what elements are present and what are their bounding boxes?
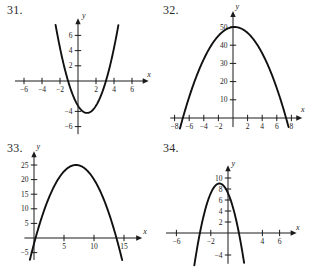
svg-text:x: x <box>142 227 147 236</box>
svg-text:4: 4 <box>69 46 73 55</box>
svg-text:20: 20 <box>220 77 228 86</box>
svg-text:−2: −2 <box>214 122 222 131</box>
svg-text:20: 20 <box>21 175 29 184</box>
svg-text:x: x <box>300 105 305 114</box>
svg-text:30: 30 <box>220 59 228 68</box>
svg-text:40: 40 <box>220 41 228 50</box>
svg-text:y: y <box>235 2 240 11</box>
graph-34: −6−246108642−4xy <box>156 140 311 279</box>
svg-text:10: 10 <box>220 95 228 104</box>
svg-text:−5: −5 <box>21 248 29 257</box>
svg-text:−4: −4 <box>65 107 73 116</box>
svg-text:8: 8 <box>219 185 223 194</box>
svg-text:2: 2 <box>69 61 73 70</box>
svg-text:5: 5 <box>62 242 66 251</box>
svg-text:6: 6 <box>278 237 282 246</box>
svg-text:10: 10 <box>215 174 223 183</box>
svg-text:−4: −4 <box>38 85 46 94</box>
svg-text:6: 6 <box>69 31 73 40</box>
svg-text:8: 8 <box>290 122 294 131</box>
svg-text:−2: −2 <box>207 237 215 246</box>
svg-text:10: 10 <box>21 204 29 213</box>
svg-text:y: y <box>81 11 86 20</box>
svg-text:y: y <box>35 142 40 151</box>
graph-31: −6−4−2246642−4−6xy <box>0 0 155 139</box>
svg-text:15: 15 <box>120 242 128 251</box>
svg-text:4: 4 <box>219 207 223 216</box>
svg-text:6: 6 <box>130 85 134 94</box>
problem-34: 34. −6−246108642−4xy <box>156 140 311 279</box>
svg-text:−2: −2 <box>56 85 64 94</box>
svg-text:x: x <box>295 223 300 232</box>
problem-31: 31. −6−4−2246642−4−6xy <box>0 0 155 139</box>
worksheet-page: 31. −6−4−2246642−4−6xy 32. −8−6−4−224685… <box>0 0 311 279</box>
svg-text:2: 2 <box>219 218 223 227</box>
svg-text:6: 6 <box>219 196 223 205</box>
svg-text:y: y <box>230 159 235 168</box>
svg-text:−8: −8 <box>171 122 179 131</box>
svg-text:−6: −6 <box>172 237 180 246</box>
svg-text:4: 4 <box>260 122 264 131</box>
svg-text:−4: −4 <box>200 122 208 131</box>
svg-text:25: 25 <box>21 161 29 170</box>
svg-text:4: 4 <box>261 237 265 246</box>
svg-text:−6: −6 <box>65 122 73 131</box>
svg-text:5: 5 <box>25 219 29 228</box>
svg-text:6: 6 <box>275 122 279 131</box>
svg-text:2: 2 <box>246 122 250 131</box>
svg-text:10: 10 <box>90 242 98 251</box>
svg-text:15: 15 <box>21 190 29 199</box>
svg-text:4: 4 <box>112 85 116 94</box>
svg-text:−4: −4 <box>215 251 223 260</box>
svg-text:−6: −6 <box>20 85 28 94</box>
svg-text:−6: −6 <box>185 122 193 131</box>
svg-text:2: 2 <box>94 85 98 94</box>
graph-33: 51015252015105−5xy <box>0 140 155 279</box>
svg-text:x: x <box>146 70 151 79</box>
problem-33: 33. 51015252015105−5xy <box>0 140 155 279</box>
graph-32: −8−6−4−224685040302010xy <box>156 0 311 139</box>
problem-32: 32. −8−6−4−224685040302010xy <box>156 0 311 139</box>
